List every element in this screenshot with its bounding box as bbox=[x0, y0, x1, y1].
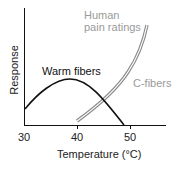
x-axis-label: Temperature (°C) bbox=[57, 148, 141, 160]
warm-fibers-label: Warm fibers bbox=[42, 65, 101, 77]
human-pain-label-line1: Human bbox=[84, 9, 141, 21]
y-axis-label: Response bbox=[8, 42, 20, 98]
x-tick-label-30: 30 bbox=[18, 131, 30, 143]
warm-fibers-curve bbox=[25, 79, 124, 125]
x-tick-label-40: 40 bbox=[71, 131, 83, 143]
human-pain-label: Human pain ratings bbox=[84, 9, 141, 33]
x-tick-label-50: 50 bbox=[124, 131, 136, 143]
c-fibers-label: C-fibers bbox=[133, 77, 172, 89]
human-pain-label-line2: pain ratings bbox=[84, 21, 141, 33]
